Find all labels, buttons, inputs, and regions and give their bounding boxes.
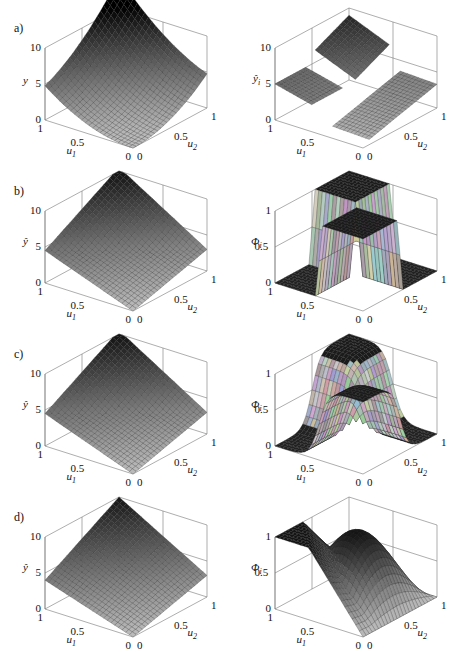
plot-a-right: 1050ŷi10.5000.51u1u2 (230, 0, 460, 163)
u2-tick-label: 1 (211, 274, 217, 285)
u2-tick-label: 0.5 (404, 294, 418, 305)
u2-tick-label: 1 (441, 274, 447, 285)
plot-a-left: a)1050y10.5000.51u1u2 (0, 0, 230, 163)
u2-tick-label: 0.5 (174, 457, 188, 468)
u2-tick-label: 0.5 (174, 131, 188, 142)
z-tick-label: 1 (266, 205, 272, 216)
u2-axis-label: u2 (417, 627, 427, 641)
u2-axis-label: u2 (187, 301, 197, 315)
z-tick-label: 5 (36, 567, 42, 578)
z-tick-label: 10 (260, 42, 271, 53)
u1-axis-label: u1 (67, 145, 77, 159)
plot-b-right: 10.50Φi10.5000.51u1u2 (230, 163, 460, 326)
u2-tick-label: 1 (441, 111, 447, 122)
u1-tick-label: 0 (356, 477, 362, 488)
u1-axis-label: u1 (297, 145, 307, 159)
z-tick-label: 5 (36, 404, 42, 415)
u1-axis-label: u1 (297, 471, 307, 485)
panel-label: b) (14, 185, 24, 197)
u1-tick-label: 0 (356, 151, 362, 162)
u2-axis-label: u2 (417, 464, 427, 478)
surface (45, 497, 207, 637)
u2-tick-label: 0.5 (404, 457, 418, 468)
z-axis-label: ŷi (253, 73, 260, 87)
z-tick-label: 10 (30, 531, 41, 542)
plot-d-left: d)1050ŷ10.5000.51u1u2 (0, 489, 230, 652)
u2-tick-label: 0 (137, 151, 143, 162)
z-axis-label: Φi (251, 562, 262, 576)
u2-tick-label: 0 (137, 477, 143, 488)
u1-tick-label: 0 (356, 314, 362, 325)
u1-tick-label: 1 (268, 123, 274, 134)
u1-tick-label: 1 (38, 449, 44, 460)
u1-tick-label: 1 (268, 286, 274, 297)
panel-label: d) (14, 511, 24, 523)
u2-tick-label: 1 (211, 437, 217, 448)
u1-axis-label: u1 (67, 471, 77, 485)
plot-c-left: c)1050ŷ10.5000.51u1u2 (0, 326, 230, 489)
u1-tick-label: 1 (38, 286, 44, 297)
u2-tick-label: 0 (367, 477, 373, 488)
u2-tick-label: 0.5 (404, 131, 418, 142)
z-axis-label: y (23, 75, 28, 86)
u1-axis-label: u1 (67, 634, 77, 648)
plot-b-left: b)1050ŷ10.5000.51u1u2 (0, 163, 230, 326)
u1-tick-label: 1 (268, 449, 274, 460)
z-tick-label: 1 (266, 368, 272, 379)
u2-axis-label: u2 (187, 464, 197, 478)
u1-tick-label: 0 (126, 640, 132, 651)
panel-label: a) (14, 22, 23, 34)
u1-axis-label: u1 (297, 308, 307, 322)
u1-tick-label: 1 (268, 612, 274, 623)
u2-axis-label: u2 (417, 301, 427, 315)
u2-axis-label: u2 (417, 138, 427, 152)
surface (45, 171, 207, 311)
u2-tick-label: 0 (137, 314, 143, 325)
u1-tick-label: 0 (126, 151, 132, 162)
u1-axis-label: u1 (67, 308, 77, 322)
u1-tick-label: 0 (126, 314, 132, 325)
z-axis-label: ŷ (23, 399, 28, 410)
z-tick-label: 5 (266, 78, 272, 89)
surface (275, 15, 437, 139)
z-axis-label: Φi (251, 236, 262, 250)
z-tick-label: 10 (30, 42, 41, 53)
u2-axis-label: u2 (187, 627, 197, 641)
z-axis-label: ŷ (23, 236, 28, 247)
u2-tick-label: 0 (367, 314, 373, 325)
u2-tick-label: 0 (367, 640, 373, 651)
u2-axis-label: u2 (187, 138, 197, 152)
z-tick-label: 5 (36, 241, 42, 252)
z-tick-label: 10 (30, 205, 41, 216)
u1-tick-label: 1 (38, 612, 44, 623)
u2-tick-label: 1 (211, 600, 217, 611)
u1-tick-label: 0 (126, 477, 132, 488)
z-tick-label: 10 (30, 368, 41, 379)
surface (275, 171, 437, 296)
u1-axis-label: u1 (297, 634, 307, 648)
plot-d-right: 10.50Φi10.5000.51u1u2 (230, 489, 460, 652)
u2-tick-label: 1 (211, 111, 217, 122)
u1-tick-label: 1 (38, 123, 44, 134)
u2-tick-label: 0.5 (174, 620, 188, 631)
surface (275, 334, 437, 453)
u2-tick-label: 1 (441, 437, 447, 448)
surface (45, 0, 207, 148)
z-tick-label: 5 (36, 78, 42, 89)
plot-c-right: 10.50Φi10.5000.51u1u2 (230, 326, 460, 489)
u2-tick-label: 0.5 (174, 294, 188, 305)
u1-tick-label: 0 (356, 640, 362, 651)
u2-tick-label: 0 (137, 640, 143, 651)
z-axis-label: ŷ (23, 562, 28, 573)
panel-label: c) (14, 348, 23, 360)
u2-tick-label: 0 (367, 151, 373, 162)
u2-tick-label: 0.5 (404, 620, 418, 631)
z-tick-label: 1 (266, 531, 272, 542)
surface (45, 334, 207, 474)
z-axis-label: Φi (251, 399, 262, 413)
u2-tick-label: 1 (441, 600, 447, 611)
